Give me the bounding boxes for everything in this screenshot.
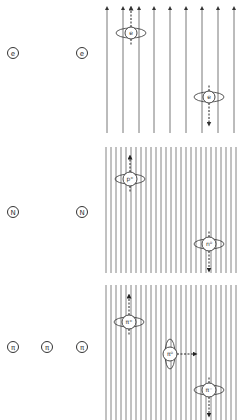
neutron-particle-spin-down: n⁰ [194,231,224,270]
pion-minus-particle-spin-down: π⁻ [194,377,224,415]
neutron-label: n⁰ [206,240,213,247]
pion-field-diagram: π⁺ π⁰ π⁻ [0,283,240,420]
electron-particle-spin-down: e [194,85,224,124]
proton-label: p⁺ [127,175,134,183]
svg-text:e: e [129,29,133,36]
panel-electron: e e e [0,0,240,135]
pion-plus-label: π⁺ [126,318,133,325]
pion-zero-label: π⁰ [167,350,174,357]
dense-field-lines [106,147,236,273]
panel-nucleon: N N p⁺ [0,145,240,275]
pion-minus-label: π⁻ [206,386,213,393]
nucleon-field-diagram: p⁺ n⁰ [0,145,240,275]
electron-particle-spin-up: e [116,8,146,45]
pion-plus-particle-spin-up: π⁺ [114,296,144,335]
svg-text:e: e [207,93,211,100]
panel-pion: π π π π⁺ [0,283,240,420]
pion-zero-particle-spin-right: π⁰ [163,339,195,369]
electron-field-diagram: e e [0,0,240,135]
field-line-arrows [107,8,234,133]
proton-particle-spin-up: p⁺ [115,157,145,192]
